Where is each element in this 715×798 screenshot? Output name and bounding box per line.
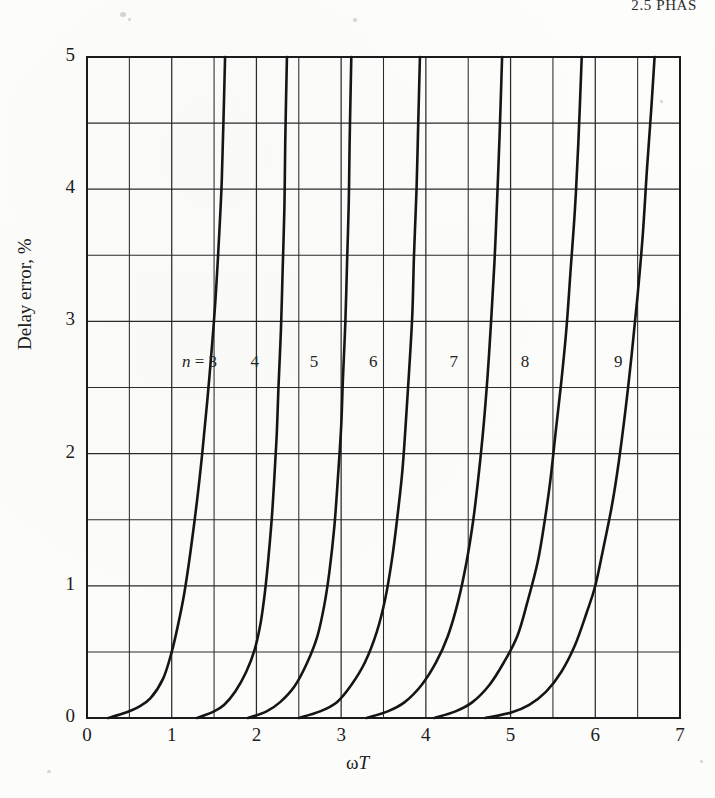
curve-label-n-9: 9 — [614, 352, 623, 372]
curve-label-n-4: 4 — [250, 352, 259, 372]
x-axis-title-omega: ω — [346, 752, 359, 773]
curve-label-equals: = — [190, 352, 208, 371]
y-tick-label: 3 — [35, 308, 75, 330]
curve-label-order: 4 — [250, 352, 259, 371]
delay-error-figure: Delay error, % ωT 01234567 012345 n = 34… — [0, 0, 715, 798]
curve-label-n-5: 5 — [310, 352, 319, 372]
curve-label-n-7: 7 — [450, 352, 459, 372]
x-axis-title: ωT — [0, 752, 715, 774]
x-tick-label: 5 — [491, 724, 531, 746]
x-tick-label: 1 — [152, 724, 192, 746]
y-tick-label: 1 — [35, 573, 75, 595]
chart-canvas — [0, 0, 715, 798]
minor-gridlines — [87, 57, 680, 718]
curve-label-n-3: n = 3 — [182, 352, 217, 372]
x-tick-label: 7 — [660, 724, 700, 746]
y-axis-title: Delay error, % — [14, 150, 36, 350]
curve-label-order: 3 — [208, 352, 217, 371]
x-tick-label: 0 — [67, 724, 107, 746]
y-tick-label: 0 — [35, 705, 75, 727]
curve-label-order: 5 — [310, 352, 319, 371]
curve-label-order: 6 — [369, 352, 378, 371]
y-tick-label: 4 — [35, 176, 75, 198]
curve-label-n-8: 8 — [521, 352, 530, 372]
curve-label-n-6: 6 — [369, 352, 378, 372]
x-axis-title-var: T — [358, 752, 369, 773]
curve-label-order: 7 — [450, 352, 459, 371]
y-tick-label: 5 — [35, 44, 75, 66]
x-tick-label: 2 — [236, 724, 276, 746]
x-tick-label: 4 — [406, 724, 446, 746]
curve-label-order: 9 — [614, 352, 623, 371]
y-tick-label: 2 — [35, 441, 75, 463]
x-tick-label: 6 — [575, 724, 615, 746]
curve-label-order: 8 — [521, 352, 530, 371]
x-tick-label: 3 — [321, 724, 361, 746]
